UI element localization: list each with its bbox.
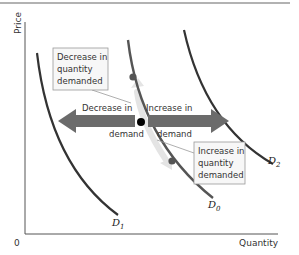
increase-demand-label-line1: Increase in xyxy=(146,103,192,113)
decrease-demand-label-line1: Decrease in xyxy=(82,103,132,113)
curve-label-d0: D0 xyxy=(207,199,221,213)
curve-label-d2: D2 xyxy=(267,155,281,169)
callout-decrease-quantity-demanded: Decrease in quantity demanded xyxy=(53,48,108,90)
callout-decrease-line3: demanded xyxy=(57,76,103,86)
callout-increase-line1: Increase in xyxy=(198,146,244,156)
callout-increase-line2: quantity xyxy=(198,158,233,168)
callout-increase-quantity-demanded: Increase in quantity demanded xyxy=(194,142,245,184)
decrease-demand-label-line2: demand xyxy=(109,129,144,139)
x-axis-label: Quantity xyxy=(239,238,279,248)
point-increase-qd xyxy=(168,157,175,164)
callout-decrease-line1: Decrease in xyxy=(57,52,107,62)
callout-decrease-line2: quantity xyxy=(57,64,92,74)
equilibrium-point xyxy=(137,118,145,126)
demand-shift-diagram: Price Quantity 0 Decrease in demand Incr… xyxy=(0,0,299,255)
increase-demand-label-line2: demand xyxy=(157,129,192,139)
point-decrease-qd xyxy=(129,73,136,80)
curve-label-d1: D1 xyxy=(111,217,125,231)
callout-leader-decrease xyxy=(92,90,131,103)
y-axis-label: Price xyxy=(13,12,23,34)
callout-increase-line3: demanded xyxy=(198,170,244,180)
origin-label: 0 xyxy=(14,238,20,248)
